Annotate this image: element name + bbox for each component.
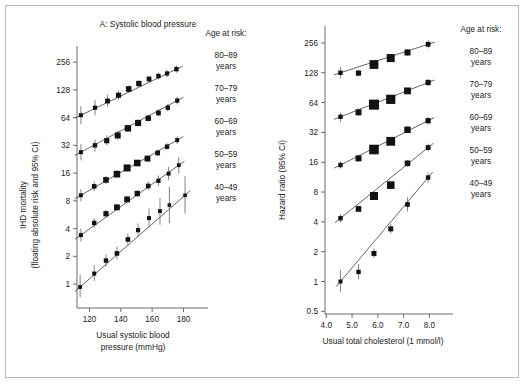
y-axis-tick-label: 64 bbox=[309, 99, 319, 108]
data-point-marker bbox=[104, 138, 109, 143]
trend-line bbox=[75, 191, 190, 292]
trend-line bbox=[335, 143, 434, 222]
legend-entry-unit: years bbox=[216, 62, 236, 71]
data-point-marker bbox=[136, 228, 140, 232]
data-point-marker bbox=[79, 113, 83, 117]
data-point-marker bbox=[356, 109, 362, 115]
data-point-marker bbox=[156, 74, 160, 78]
data-point-marker bbox=[338, 115, 342, 119]
x-axis-label: Usual systolic blood bbox=[96, 330, 170, 340]
legend-entry-unit: years bbox=[471, 58, 491, 67]
y-axis-tick-label: 1 bbox=[65, 280, 70, 289]
y-axis-label: (floating absolute risk and 95% CI) bbox=[30, 141, 40, 268]
y-axis-tick-label: 128 bbox=[304, 69, 318, 78]
data-point-marker bbox=[147, 77, 152, 82]
data-point-marker bbox=[135, 120, 141, 126]
data-point-marker bbox=[165, 71, 169, 75]
data-point-marker bbox=[174, 67, 178, 71]
panel-systolic-blood-pressure: A: Systolic blood pressure12481632641282… bbox=[0, 0, 263, 384]
trend-line bbox=[334, 80, 435, 119]
y-axis-tick-label: 8 bbox=[65, 197, 70, 206]
data-point-marker bbox=[370, 60, 379, 69]
data-point-marker bbox=[155, 151, 160, 156]
y-axis-tick-label: 32 bbox=[61, 141, 71, 150]
data-point-marker bbox=[387, 54, 395, 62]
y-axis-label: Hazard ratio (95% CI) bbox=[277, 140, 287, 220]
data-point-marker bbox=[404, 49, 410, 55]
legend-entry-range: 50–59 bbox=[215, 150, 238, 159]
y-axis-label: IHD mortality bbox=[18, 180, 28, 229]
x-axis-tick-label: 6.0 bbox=[372, 321, 384, 330]
data-point-marker bbox=[177, 163, 181, 167]
data-point-marker bbox=[92, 272, 96, 276]
data-point-marker bbox=[146, 116, 151, 121]
data-point-marker bbox=[126, 86, 132, 92]
data-point-marker bbox=[175, 138, 179, 142]
y-axis-tick-label: 256 bbox=[56, 58, 70, 67]
legend-entry-unit: years bbox=[471, 91, 491, 100]
x-axis-tick-label: 8.0 bbox=[424, 321, 436, 330]
trend-line bbox=[336, 172, 433, 287]
data-point-marker bbox=[338, 163, 342, 167]
data-point-marker bbox=[156, 111, 161, 116]
data-point-marker bbox=[356, 155, 362, 161]
data-point-marker bbox=[79, 233, 83, 237]
data-point-marker bbox=[404, 87, 411, 94]
legend-heading: Age at risk: bbox=[461, 25, 502, 34]
data-point-marker bbox=[126, 237, 131, 242]
data-point-marker bbox=[183, 193, 187, 197]
legend-entry-range: 70–79 bbox=[215, 84, 238, 93]
x-axis-tick-label: 180 bbox=[177, 315, 191, 324]
y-axis-tick-label: 4 bbox=[65, 225, 70, 234]
data-point-marker bbox=[136, 81, 141, 86]
data-point-marker bbox=[103, 177, 109, 183]
legend-entry-range: 40–49 bbox=[215, 183, 238, 192]
data-point-marker bbox=[135, 191, 140, 196]
data-point-marker bbox=[93, 143, 97, 147]
data-point-marker bbox=[104, 258, 108, 262]
data-point-marker bbox=[124, 164, 131, 171]
legend-entry-range: 60–69 bbox=[215, 117, 238, 126]
y-axis-tick-label: 16 bbox=[61, 169, 71, 178]
legend-entry-unit: years bbox=[216, 161, 236, 170]
data-point-marker bbox=[369, 145, 379, 155]
data-point-marker bbox=[175, 98, 179, 102]
panel-b-canvas: 0.512481632641282564.05.06.07.08.0Usual … bbox=[263, 0, 525, 384]
legend-entry-range: 70–79 bbox=[470, 80, 493, 89]
data-point-marker bbox=[370, 192, 378, 200]
data-point-marker bbox=[134, 160, 141, 167]
data-point-marker bbox=[93, 106, 97, 110]
legend-entry-unit: years bbox=[216, 128, 236, 137]
y-axis-tick-label: 128 bbox=[56, 86, 70, 95]
y-axis-tick-label: 2 bbox=[65, 252, 70, 261]
trend-line bbox=[334, 42, 435, 75]
x-axis-tick-label: 5.0 bbox=[346, 321, 358, 330]
legend-heading: Age at risk: bbox=[206, 29, 247, 38]
data-point-marker bbox=[79, 193, 83, 197]
y-axis-tick-label: 1 bbox=[313, 278, 318, 287]
legend-entry-range: 80–89 bbox=[215, 51, 238, 60]
y-axis-tick-label: 64 bbox=[61, 114, 71, 123]
data-point-marker bbox=[369, 100, 379, 110]
x-axis-tick-label: 7.0 bbox=[398, 321, 410, 330]
data-point-marker bbox=[103, 211, 108, 216]
data-point-marker bbox=[426, 80, 431, 85]
data-point-marker bbox=[158, 209, 162, 213]
data-point-marker bbox=[168, 203, 172, 207]
data-point-marker bbox=[115, 251, 120, 256]
x-axis-tick-label: 120 bbox=[83, 315, 97, 324]
trend-line bbox=[334, 118, 434, 169]
data-point-marker bbox=[338, 280, 342, 284]
data-point-marker bbox=[79, 150, 83, 154]
legend-entry-unit: years bbox=[216, 194, 236, 203]
data-point-marker bbox=[371, 251, 376, 256]
data-point-marker bbox=[156, 179, 160, 183]
data-point-marker bbox=[386, 137, 395, 146]
data-point-marker bbox=[356, 270, 360, 274]
y-axis-tick-label: 8 bbox=[313, 188, 318, 197]
legend-entry-unit: years bbox=[471, 190, 491, 199]
data-point-marker bbox=[356, 70, 361, 75]
data-point-marker bbox=[105, 99, 110, 104]
y-axis-tick-label: 0.5 bbox=[307, 307, 319, 316]
figure-root: A: Systolic blood pressure12481632641282… bbox=[0, 0, 525, 384]
